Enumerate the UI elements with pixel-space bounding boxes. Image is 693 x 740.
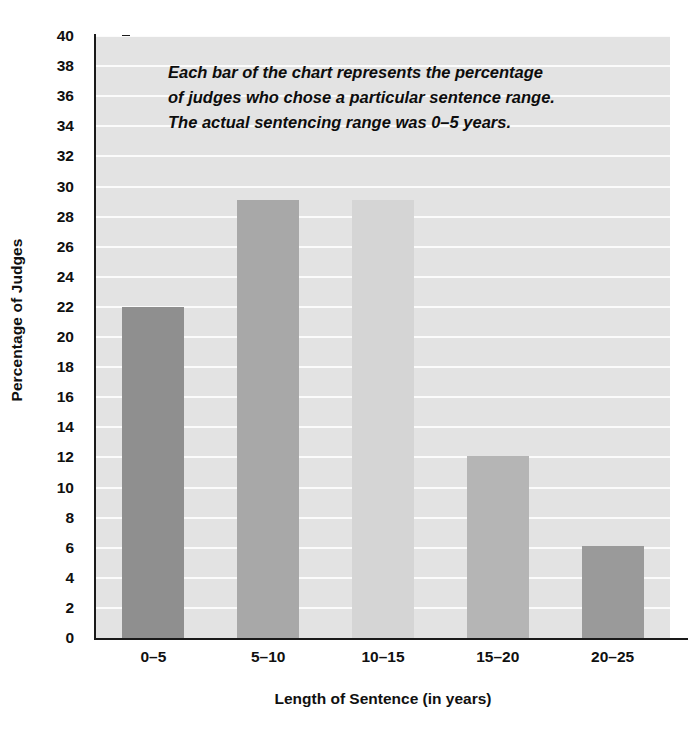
y-axis-tick-label: 34 xyxy=(57,119,74,135)
annotation-line-3: The actual sentencing range was 0–5 year… xyxy=(168,110,638,135)
y-axis-tick-label: 28 xyxy=(57,209,74,225)
bar-0-5 xyxy=(122,307,184,638)
y-axis-tick-label: 8 xyxy=(65,510,74,526)
y-axis-tick-label: 22 xyxy=(57,299,74,315)
x-axis-line xyxy=(94,638,688,640)
y-axis-tick-label: 32 xyxy=(57,149,74,165)
y-axis-tick-label: 40 xyxy=(57,28,74,44)
y-axis-tick-label: 16 xyxy=(57,389,74,405)
annotation-line-2: of judges who chose a particular sentenc… xyxy=(168,85,638,110)
y-axis-tick-label: 10 xyxy=(57,480,74,496)
bar-15-20 xyxy=(467,456,529,638)
y-axis-tick-label: 30 xyxy=(57,179,74,195)
y-axis-title: Percentage of Judges xyxy=(0,0,34,640)
chart-annotation: Each bar of the chart represents the per… xyxy=(168,60,638,135)
x-axis-tick-label: 15–20 xyxy=(476,648,519,666)
y-axis-tick-label: 6 xyxy=(65,540,74,556)
x-axis-tick-label: 10–15 xyxy=(361,648,404,666)
y-axis-title-text: Percentage of Judges xyxy=(8,238,26,401)
bar-10-15 xyxy=(352,200,414,638)
bar-5-10 xyxy=(237,200,299,638)
y-axis-tick-labels: 0246810121416182022242628303234363840 xyxy=(34,0,84,640)
x-axis-title: Length of Sentence (in years) xyxy=(96,690,670,708)
y-axis-tick-label: 0 xyxy=(65,630,74,646)
y-axis-tick-label: 38 xyxy=(57,58,74,74)
bar-20-25 xyxy=(582,546,644,638)
bar-chart: Percentage of Judges 0246810121416182022… xyxy=(0,0,693,740)
y-axis-tick-label: 12 xyxy=(57,450,74,466)
y-axis-tick-label: 24 xyxy=(57,269,74,285)
x-axis-tick-labels: 0–55–1010–1515–2020–25 xyxy=(96,648,670,676)
y-axis-tick-label: 4 xyxy=(65,570,74,586)
x-axis-tick-label: 0–5 xyxy=(140,648,166,666)
x-axis-tick-label: 20–25 xyxy=(591,648,634,666)
y-axis-tick-label: 20 xyxy=(57,329,74,345)
y-axis-tick-label: 2 xyxy=(65,600,74,616)
y-axis-tick-label: 14 xyxy=(57,420,74,436)
y-axis-tick-label: 26 xyxy=(57,239,74,255)
y-axis-tick-label: 36 xyxy=(57,88,74,104)
y-axis-tick-label: 18 xyxy=(57,359,74,375)
annotation-line-1: Each bar of the chart represents the per… xyxy=(168,60,638,85)
x-axis-tick-label: 5–10 xyxy=(251,648,285,666)
